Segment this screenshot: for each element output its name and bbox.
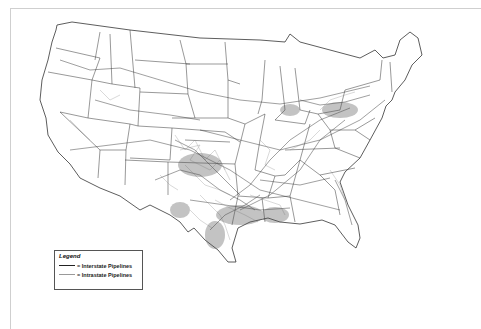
map-legend: Legend = Interstate Pipelines = Intrasta… <box>54 250 143 290</box>
legend-item-interstate: = Interstate Pipelines <box>59 261 138 270</box>
pipeline-density-clusters <box>170 102 358 249</box>
interstate-pipelines <box>60 60 385 230</box>
intrastate-line-swatch <box>59 274 75 275</box>
us-outline <box>40 22 422 262</box>
state-borders <box>48 30 392 225</box>
legend-label-intrastate: = Intrastate Pipelines <box>77 272 132 278</box>
legend-item-intrastate: = Intrastate Pipelines <box>59 270 138 279</box>
legend-label-interstate: = Interstate Pipelines <box>77 263 132 269</box>
interstate-line-swatch <box>59 265 75 266</box>
legend-title: Legend <box>59 253 138 259</box>
